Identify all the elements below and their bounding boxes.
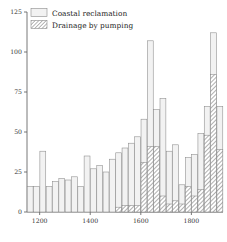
legend-swatch-drainage-by-pumping bbox=[31, 21, 47, 29]
bar-drainage-by-pumping bbox=[160, 196, 166, 212]
bar-coastal-reclamation bbox=[116, 153, 122, 212]
y-tick-label: 50 bbox=[14, 128, 22, 135]
x-tick-label: 1200 bbox=[32, 217, 48, 224]
x-tick-label: 1600 bbox=[133, 217, 149, 224]
bar-coastal-reclamation bbox=[46, 186, 52, 212]
bar-coastal-reclamation bbox=[40, 151, 46, 212]
legend-label-coastal-reclamation: Coastal reclamation bbox=[52, 9, 127, 18]
bar-drainage-by-pumping bbox=[154, 146, 160, 212]
y-tick-label: 125 bbox=[10, 8, 22, 15]
bar-drainage-by-pumping bbox=[204, 135, 210, 212]
legend-label-drainage-by-pumping: Drainage by pumping bbox=[52, 21, 133, 30]
bar-coastal-reclamation bbox=[53, 182, 59, 212]
bar-drainage-by-pumping bbox=[185, 186, 191, 212]
y-tick-label: 75 bbox=[14, 88, 22, 95]
bar-coastal-reclamation bbox=[103, 172, 109, 212]
bar-coastal-reclamation bbox=[78, 186, 84, 212]
bar-coastal-reclamation bbox=[160, 98, 166, 212]
bar-coastal-reclamation bbox=[97, 166, 103, 212]
y-tick-label: 0 bbox=[18, 208, 22, 215]
bar-drainage-by-pumping bbox=[198, 190, 204, 212]
y-tick-label: 25 bbox=[14, 168, 22, 175]
x-tick-label: 1400 bbox=[82, 217, 98, 224]
bar-drainage-by-pumping bbox=[116, 207, 122, 212]
bar-chart-svg: 0255075100125 1200140016001800 Coastal r… bbox=[0, 0, 227, 242]
bar-drainage-by-pumping bbox=[135, 206, 141, 212]
bar-coastal-reclamation bbox=[166, 151, 172, 212]
legend: Coastal reclamation Drainage by pumping bbox=[31, 9, 133, 30]
bar-coastal-reclamation bbox=[122, 148, 128, 212]
y-tick-label: 100 bbox=[10, 48, 22, 55]
bar-drainage-by-pumping bbox=[141, 162, 147, 212]
bar-coastal-reclamation bbox=[128, 143, 134, 212]
bar-drainage-by-pumping bbox=[173, 201, 179, 212]
bar-group bbox=[27, 33, 223, 212]
bar-drainage-by-pumping bbox=[179, 204, 185, 212]
x-axis: 1200140016001800 bbox=[27, 212, 223, 224]
bar-drainage-by-pumping bbox=[217, 150, 223, 212]
bar-drainage-by-pumping bbox=[211, 74, 217, 212]
bar-coastal-reclamation bbox=[59, 178, 65, 212]
y-axis: 0255075100125 bbox=[10, 8, 27, 215]
bar-coastal-reclamation bbox=[27, 186, 33, 212]
bar-coastal-reclamation bbox=[90, 169, 96, 212]
bar-coastal-reclamation bbox=[34, 186, 40, 212]
bar-coastal-reclamation bbox=[71, 177, 77, 212]
bar-drainage-by-pumping bbox=[147, 146, 153, 212]
bar-coastal-reclamation bbox=[109, 159, 115, 212]
bar-drainage-by-pumping bbox=[122, 206, 128, 212]
bar-drainage-by-pumping bbox=[192, 196, 198, 212]
bar-coastal-reclamation bbox=[135, 137, 141, 212]
legend-swatch-coastal-reclamation bbox=[31, 9, 47, 17]
bar-coastal-reclamation bbox=[65, 180, 71, 212]
bar-drainage-by-pumping bbox=[166, 204, 172, 212]
x-tick-label: 1800 bbox=[184, 217, 200, 224]
bar-coastal-reclamation bbox=[84, 156, 90, 212]
chart-figure: 0255075100125 1200140016001800 Coastal r… bbox=[0, 0, 227, 242]
bar-drainage-by-pumping bbox=[128, 206, 134, 212]
